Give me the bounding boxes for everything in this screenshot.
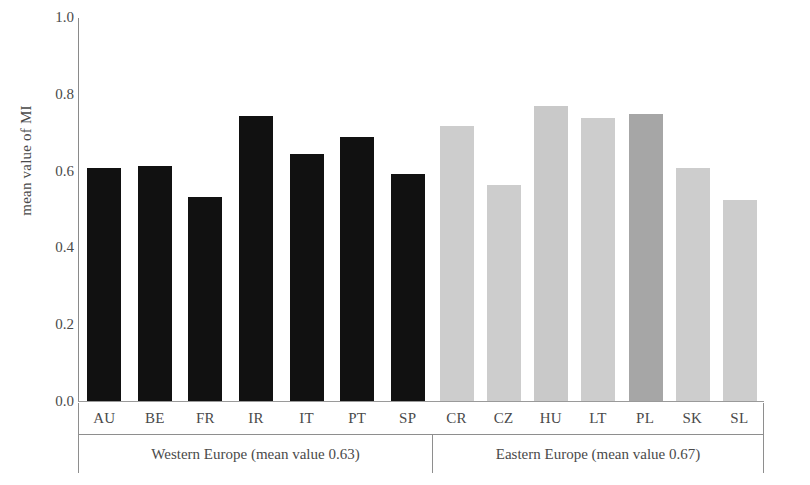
category-label-sl: SL bbox=[716, 403, 763, 434]
bar-group-eastern-europe bbox=[433, 18, 764, 402]
category-label-lt: LT bbox=[574, 403, 621, 434]
bar-slot bbox=[433, 18, 480, 402]
bar-lt bbox=[581, 118, 615, 402]
bar-slot bbox=[622, 18, 669, 402]
category-label-it: IT bbox=[281, 403, 332, 434]
y-axis-tick-label: 0.8 bbox=[30, 87, 74, 102]
bar-pl bbox=[629, 114, 663, 402]
bar-slot bbox=[130, 18, 181, 402]
category-label-cz: CZ bbox=[480, 403, 527, 434]
category-label-ir: IR bbox=[231, 403, 282, 434]
bar-be bbox=[138, 166, 172, 402]
y-axis-tick-label: 1.0 bbox=[30, 10, 74, 25]
bar-ir bbox=[239, 116, 273, 402]
bar-slot bbox=[717, 18, 764, 402]
category-label-sp: SP bbox=[382, 403, 433, 434]
bar-cz bbox=[487, 185, 521, 402]
category-label-be: BE bbox=[130, 403, 181, 434]
category-labels-western-europe: AUBEFRIRITPTSP bbox=[79, 403, 433, 434]
group-label-western-europe: Western Europe (mean value 0.63) bbox=[78, 435, 432, 473]
bar-slot bbox=[79, 18, 130, 402]
bar-slot bbox=[231, 18, 282, 402]
group-label-eastern-europe: Eastern Europe (mean value 0.67) bbox=[432, 435, 764, 473]
category-label-pt: PT bbox=[332, 403, 383, 434]
bar-hu bbox=[534, 106, 568, 402]
bar-slot bbox=[528, 18, 575, 402]
category-label-sk: SK bbox=[669, 403, 716, 434]
bar-sl bbox=[723, 200, 757, 402]
y-axis-tick-labels: 1.00.80.60.40.20.0 bbox=[0, 0, 74, 405]
category-labels-eastern-europe: CRCZHULTPLSKSL bbox=[433, 403, 763, 434]
y-axis-tick-label: 0.0 bbox=[30, 394, 74, 409]
bar-slot bbox=[332, 18, 383, 402]
bar-it bbox=[290, 154, 324, 402]
bar-slot bbox=[480, 18, 527, 402]
plot-area bbox=[79, 18, 764, 402]
category-label-row: AUBEFRIRITPTSP CRCZHULTPLSKSL bbox=[78, 403, 764, 435]
bar-slot bbox=[669, 18, 716, 402]
bar-slot bbox=[180, 18, 231, 402]
bar-pt bbox=[340, 137, 374, 402]
bar-sk bbox=[676, 168, 710, 402]
y-axis-tick-label: 0.2 bbox=[30, 317, 74, 332]
category-label-cr: CR bbox=[433, 403, 480, 434]
bar-slot bbox=[281, 18, 332, 402]
bar-fr bbox=[188, 197, 222, 402]
bar-slot bbox=[575, 18, 622, 402]
y-axis-tick-label: 0.6 bbox=[30, 164, 74, 179]
bar-slot bbox=[382, 18, 433, 402]
bar-group-western-europe bbox=[79, 18, 433, 402]
y-axis-tick-label: 0.4 bbox=[30, 240, 74, 255]
category-label-fr: FR bbox=[180, 403, 231, 434]
bar-cr bbox=[440, 126, 474, 402]
x-axis-baseline bbox=[78, 401, 764, 402]
category-label-hu: HU bbox=[527, 403, 574, 434]
bar-chart: mean value of MI 1.00.80.60.40.20.0 AUBE… bbox=[0, 0, 810, 485]
category-label-au: AU bbox=[79, 403, 130, 434]
group-label-row: Western Europe (mean value 0.63) Eastern… bbox=[78, 435, 764, 473]
category-label-pl: PL bbox=[622, 403, 669, 434]
bar-au bbox=[87, 168, 121, 402]
bar-sp bbox=[391, 174, 425, 402]
